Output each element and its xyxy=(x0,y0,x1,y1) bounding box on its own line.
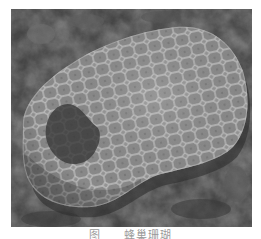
fossil-photo xyxy=(11,9,252,227)
caption-title: 蜂巢珊瑚 xyxy=(124,229,172,239)
figure-caption: 图 蜂巢珊瑚 xyxy=(0,229,261,239)
fossil-image xyxy=(11,9,252,227)
caption-figure-label: 图 xyxy=(89,229,101,239)
